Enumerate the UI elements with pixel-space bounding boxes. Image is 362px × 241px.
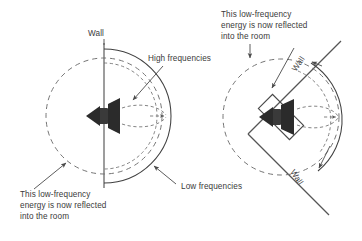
speaker-front-left — [86, 106, 100, 126]
right-caption-line2: energy is now reflected — [221, 21, 308, 30]
direct-output-dashed-lower-left — [122, 117, 166, 127]
left-caption-line3: into the room — [20, 212, 69, 221]
low-frequencies-label: Low frequencies — [181, 182, 242, 191]
speaker-front-right — [259, 107, 273, 127]
speaker-magnet-left — [99, 108, 108, 124]
low-frequencies-leader — [154, 166, 176, 184]
high-frequencies-label: High frequencies — [148, 54, 211, 63]
left-caption-leader — [34, 163, 66, 189]
wall-line-right-upper — [248, 41, 341, 134]
right-caption: This low-frequency energy is now reflect… — [221, 10, 308, 41]
right-caption-line1: This low-frequency — [221, 10, 292, 19]
inner-dashed-arc-right — [298, 71, 331, 152]
direct-output-dashed-upper-right — [297, 106, 338, 116]
wall-label-right-upper: Wall — [290, 55, 306, 73]
diagram-canvas: Wall High frequencies Low frequencies Th… — [0, 0, 362, 241]
left-diagram: Wall High frequencies Low frequencies Th… — [20, 29, 242, 221]
left-caption: This low-frequency energy is now reflect… — [20, 190, 107, 221]
speaker-magnet-right — [272, 109, 281, 125]
speaker-cone-right — [281, 99, 294, 135]
left-caption-line2: energy is now reflected — [20, 201, 107, 210]
right-caption-line3: into the room — [221, 32, 270, 41]
left-caption-line1: This low-frequency — [20, 190, 91, 199]
direct-output-dashed-upper-left — [122, 105, 166, 115]
wall-label-left: Wall — [88, 29, 104, 38]
speaker-cone-left — [108, 98, 120, 134]
